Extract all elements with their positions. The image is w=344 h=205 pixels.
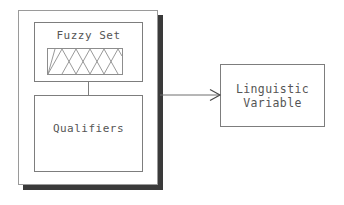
qualifiers-box[interactable]: Qualifiers xyxy=(34,95,143,172)
arrow-svg xyxy=(160,86,222,104)
diagram-canvas: Fuzzy Set Qualifiers Linguistic Variable xyxy=(0,0,344,205)
group-to-linguistic-variable-arrow xyxy=(160,86,222,104)
linguistic-variable-label-line2: Variable xyxy=(221,96,324,110)
fuzzy-set-label: Fuzzy Set xyxy=(35,29,142,42)
qualifiers-label: Qualifiers xyxy=(35,122,142,135)
fuzzy-membership-plot xyxy=(47,48,123,75)
membership-functions-svg xyxy=(48,49,122,74)
linguistic-variable-label-line1: Linguistic xyxy=(221,82,324,96)
linguistic-variable-box[interactable]: Linguistic Variable xyxy=(220,64,325,127)
fuzzy-set-to-qualifiers-connector xyxy=(88,82,89,95)
